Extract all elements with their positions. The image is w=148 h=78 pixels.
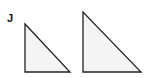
large-right-triangle — [83, 12, 141, 72]
triangles-diagram — [0, 0, 148, 78]
small-right-triangle — [25, 24, 70, 72]
